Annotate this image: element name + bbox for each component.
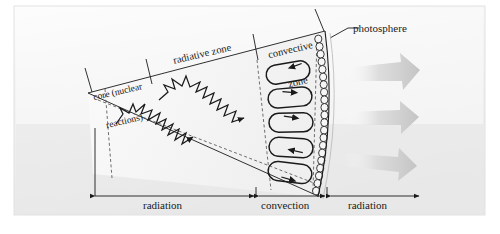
scale-label-radiation-inner: radiation bbox=[143, 200, 182, 212]
diagram-canvas: 0% bbox=[0, 0, 500, 234]
scale-label-radiation-outer: radiation bbox=[348, 200, 387, 212]
label-photosphere: photosphere bbox=[353, 23, 407, 35]
label-convective-zone-line1: convective bbox=[267, 39, 314, 60]
scale-label-convection: convection bbox=[261, 200, 309, 212]
label-core-line1: core (nuclear bbox=[92, 82, 143, 103]
escaping-radiation-arrows bbox=[344, 53, 420, 181]
label-convective-zone-line2: zone bbox=[274, 71, 321, 92]
solar-structure-diagram: 0% bbox=[0, 0, 500, 234]
label-core-line2: reactions) bbox=[99, 111, 150, 132]
